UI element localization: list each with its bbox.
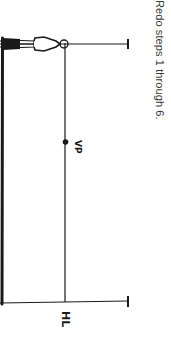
vanishing-point-label: VP bbox=[73, 140, 83, 154]
horizon-line-label: HL bbox=[59, 311, 72, 327]
instruction-text: Redo steps 1 through 6. bbox=[150, 0, 170, 170]
perspective-drawing-figure: Redo steps 1 through 6. VP HL bbox=[0, 0, 171, 344]
drawing-canvas bbox=[0, 0, 171, 344]
bottom-guide-line bbox=[0, 301, 128, 303]
left-edge-line bbox=[2, 38, 3, 304]
pencil-icon bbox=[0, 37, 60, 51]
vanishing-point-dot bbox=[63, 139, 69, 145]
